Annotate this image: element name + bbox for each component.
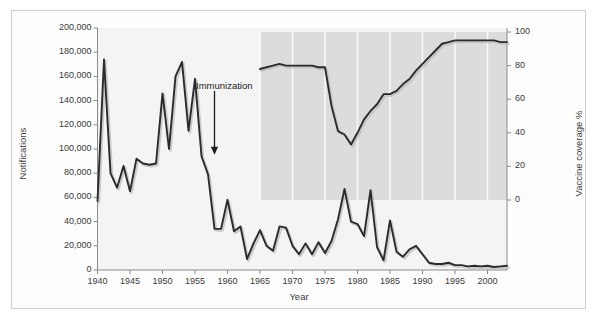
y-axis-left-tick-label: 120,000 xyxy=(44,119,92,129)
x-axis-tick-label: 1950 xyxy=(145,276,181,286)
x-axis-tick-label: 1965 xyxy=(242,276,278,286)
x-axis-tick-label: 1985 xyxy=(372,276,408,286)
x-axis-tick-label: 1980 xyxy=(340,276,376,286)
y-axis-right-tick-label: 60 xyxy=(515,93,541,103)
y-axis-left-tick-label: 60,000 xyxy=(44,191,92,201)
y-axis-left-tick-label: 40,000 xyxy=(44,216,92,226)
y-axis-right-tick-label: 0 xyxy=(515,194,541,204)
y-axis-left-tick-label: 180,000 xyxy=(44,46,92,56)
y-axis-right-tick-label: 80 xyxy=(515,60,541,70)
y-axis-left-tick-label: 80,000 xyxy=(44,167,92,177)
x-axis-tick-label: 2000 xyxy=(470,276,506,286)
x-axis-tick-label: 1990 xyxy=(405,276,441,286)
x-axis-tick-label: 1975 xyxy=(307,276,343,286)
y-axis-right-tick-label: 40 xyxy=(515,127,541,137)
y-axis-left-tick-label: 100,000 xyxy=(44,143,92,153)
chart-figure: 020,00040,00060,00080,000100,000120,0001… xyxy=(0,0,598,321)
x-axis-title: Year xyxy=(0,291,598,302)
x-axis-tick-label: 1940 xyxy=(80,276,116,286)
x-axis-tick-label: 1955 xyxy=(177,276,213,286)
x-axis-tick-label: 1960 xyxy=(210,276,246,286)
y-axis-left-tick-label: 0 xyxy=(44,264,92,274)
x-axis-tick-label: 1945 xyxy=(112,276,148,286)
y-axis-left-title: Notifications xyxy=(17,114,28,194)
x-axis-tick-label: 1995 xyxy=(437,276,473,286)
y-axis-right-tick-label: 20 xyxy=(515,160,541,170)
y-axis-left-tick-label: 20,000 xyxy=(44,240,92,250)
y-axis-left-tick-label: 140,000 xyxy=(44,95,92,105)
y-axis-left-tick-label: 200,000 xyxy=(44,22,92,32)
immunization-annotation-label: Immunization xyxy=(196,80,253,91)
x-axis-tick-label: 1970 xyxy=(275,276,311,286)
y-axis-right-title: Vaccine coverage % xyxy=(573,99,584,209)
y-axis-right-tick-label: 100 xyxy=(515,26,541,36)
y-axis-left-tick-label: 160,000 xyxy=(44,70,92,80)
shaded-band xyxy=(260,32,507,200)
